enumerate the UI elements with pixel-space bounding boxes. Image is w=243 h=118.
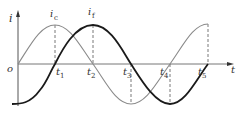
y-axis-label: i — [9, 12, 13, 25]
time-mark-t2: t 2 — [87, 66, 95, 80]
svg-text:3: 3 — [127, 72, 131, 80]
x-axis-label: t — [231, 64, 236, 75]
svg-text:1: 1 — [60, 72, 64, 80]
time-mark-t1: t 1 — [56, 66, 64, 80]
svg-text:2: 2 — [91, 72, 95, 80]
svg-text:c: c — [54, 14, 58, 22]
label-if: i f — [88, 6, 96, 20]
label-ic: i c — [50, 8, 58, 22]
origin-label: o — [7, 63, 13, 74]
waveform-diagram: i o t i c i f t 1 t 2 t 3 t 4 t 5 — [0, 0, 243, 118]
svg-text:5: 5 — [202, 72, 206, 80]
svg-text:i: i — [50, 8, 53, 19]
svg-text:f: f — [92, 12, 96, 20]
y-axis-arrow-icon — [16, 10, 20, 17]
svg-text:i: i — [88, 6, 91, 17]
time-mark-t3: t 3 — [123, 66, 131, 80]
svg-text:4: 4 — [164, 72, 169, 80]
